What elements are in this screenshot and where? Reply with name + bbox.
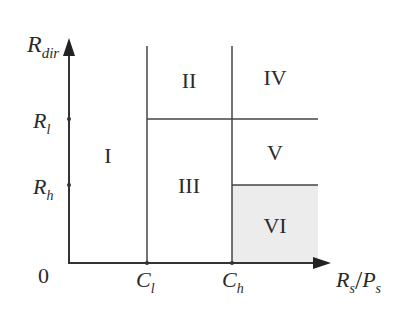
region-diagram: Rdir Rl Rh 0 Cl Ch Rs/Ps I II III IV V V… xyxy=(0,0,411,312)
x-tick-label-ch: Ch xyxy=(222,267,244,296)
x-axis-label: Rs/Ps xyxy=(335,266,382,296)
x-tick-label-cl: Cl xyxy=(136,267,155,296)
region-vi-label: VI xyxy=(263,213,286,238)
y-axis-label: Rdir xyxy=(26,31,59,61)
origin-label: 0 xyxy=(38,263,49,288)
rl-tick-dot xyxy=(67,117,71,121)
region-v-label: V xyxy=(267,140,283,165)
y-tick-label-rl: Rl xyxy=(32,108,50,137)
region-iii-label: III xyxy=(178,173,200,198)
y-tick-label-rh: Rh xyxy=(32,174,53,203)
rh-tick-dot xyxy=(67,183,71,187)
region-i-label: I xyxy=(104,143,111,168)
ch-tick-dot xyxy=(230,261,234,265)
y-axis-arrow-icon xyxy=(63,38,75,56)
x-axis-arrow-icon xyxy=(313,257,331,269)
region-ii-label: II xyxy=(182,68,197,93)
region-iv-label: IV xyxy=(263,65,286,90)
cl-tick-dot xyxy=(145,261,149,265)
